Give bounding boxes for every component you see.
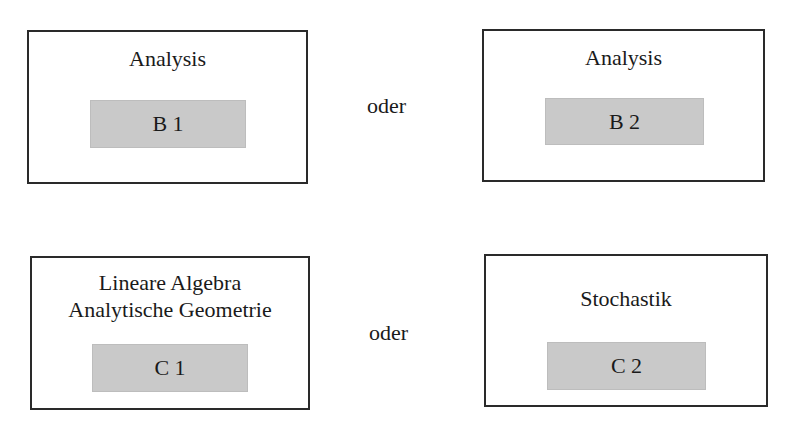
option-title-line-2: Analytische Geometrie bbox=[32, 297, 308, 323]
option-code-c1: C 1 bbox=[92, 344, 248, 392]
option-code-b2: B 2 bbox=[545, 98, 704, 145]
connector-oder-bottom: oder bbox=[369, 320, 408, 346]
option-code-c2: C 2 bbox=[547, 342, 706, 390]
option-box-c1: Lineare Algebra Analytische Geometrie C … bbox=[30, 256, 310, 410]
option-code-b1: B 1 bbox=[90, 100, 246, 148]
connector-oder-top: oder bbox=[367, 93, 406, 119]
option-box-b2: Analysis B 2 bbox=[482, 29, 765, 182]
option-box-c2: Stochastik C 2 bbox=[484, 254, 768, 407]
option-title: Analysis bbox=[484, 45, 763, 71]
option-title: Analysis bbox=[29, 46, 306, 72]
option-title-line-1: Lineare Algebra bbox=[32, 270, 308, 296]
option-title: Stochastik bbox=[486, 286, 766, 312]
option-box-b1: Analysis B 1 bbox=[27, 30, 308, 184]
